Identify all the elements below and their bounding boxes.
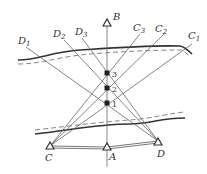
station-c-label: C <box>45 152 53 163</box>
point-1-marker <box>105 101 110 106</box>
sightline-d3-label: D3 <box>74 26 88 39</box>
station-b-icon <box>103 19 111 26</box>
sightline-d2-label: D2 <box>52 28 66 41</box>
station-a-label: A <box>108 151 116 162</box>
point-1-label: 1 <box>112 100 117 109</box>
point-3-label: 3 <box>112 70 117 79</box>
sightline-c1-label: C1 <box>188 30 200 43</box>
sightline-c2-label: C2 <box>155 23 168 36</box>
triangulation-diagram: 3 2 1 B A C D D1 D2 D3 C3 C2 C1 <box>0 0 207 174</box>
sightline-d1-label: D1 <box>17 35 31 48</box>
station-b-label: B <box>112 11 120 22</box>
lower-river-bank <box>35 112 185 134</box>
station-d-label: D <box>156 148 165 159</box>
point-2-marker <box>105 86 110 91</box>
point-3-marker <box>105 71 110 76</box>
sightlines-from-d <box>26 38 158 141</box>
point-2-label: 2 <box>112 85 117 94</box>
upper-river-bank <box>18 46 192 64</box>
sightline-c3-label: C3 <box>133 22 146 35</box>
